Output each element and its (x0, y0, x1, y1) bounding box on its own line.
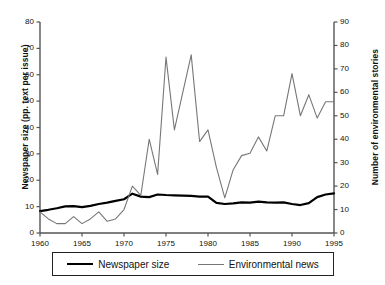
x-axis-tick-label: 1995 (319, 239, 349, 248)
legend-swatch-line-icon (198, 264, 224, 265)
y-axis-left-tick-label: 80 (18, 17, 34, 26)
y-axis-right-tick-label: 0 (340, 228, 356, 237)
chart-container: Newspaper size (pp. text per issue) Numb… (0, 0, 385, 285)
y-axis-left-tick-label: 20 (18, 175, 34, 184)
legend-item-newspaper-size: Newspaper size (67, 259, 169, 270)
x-axis-tick-label: 1985 (235, 239, 265, 248)
x-axis-tick-label: 1975 (151, 239, 181, 248)
y-axis-left-tick-label: 60 (18, 70, 34, 79)
y-axis-right-tick-label: 10 (340, 205, 356, 214)
y-axis-right-tick-label: 90 (340, 17, 356, 26)
series-line-newspaper-size (40, 193, 334, 211)
legend-label: Environmental news (229, 259, 319, 270)
y-axis-left-tick-label: 10 (18, 202, 34, 211)
x-axis-tick-label: 1970 (109, 239, 139, 248)
x-axis-tick-label: 1980 (193, 239, 223, 248)
x-axis-tick-label: 1960 (25, 239, 55, 248)
chart-legend: Newspaper size Environmental news (52, 252, 334, 276)
y-axis-left-tick-label: 50 (18, 96, 34, 105)
legend-swatch-line-icon (67, 263, 93, 265)
legend-item-environmental-news: Environmental news (198, 259, 319, 270)
y-axis-left-tick-label: 0 (18, 228, 34, 237)
x-axis-tick-label: 1965 (67, 239, 97, 248)
x-axis-tick-label: 1990 (277, 239, 307, 248)
y-axis-left-tick-label: 70 (18, 43, 34, 52)
y-axis-right-tick-label: 70 (340, 64, 356, 73)
legend-label: Newspaper size (98, 259, 169, 270)
y-axis-right-tick-label: 50 (340, 111, 356, 120)
series-line-environmental-news (40, 55, 334, 224)
y-axis-right-tick-label: 80 (340, 40, 356, 49)
y-axis-left-tick-label: 40 (18, 123, 34, 132)
y-axis-right-tick-label: 40 (340, 134, 356, 143)
y-axis-right-tick-label: 60 (340, 87, 356, 96)
y-axis-left-tick-label: 30 (18, 149, 34, 158)
y-axis-right-tick-label: 20 (340, 181, 356, 190)
y-axis-right-tick-label: 30 (340, 158, 356, 167)
